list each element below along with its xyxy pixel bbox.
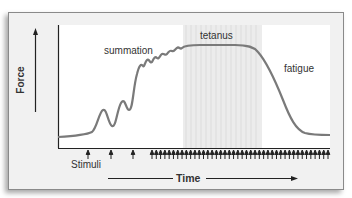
stimulus-arrow-icon [185,150,189,155]
y-axis-label: Force [15,66,26,94]
muscle-force-diagram: Force summation tetanus fatigue Stimuli … [0,0,352,198]
stimulus-arrow-icon [305,150,309,155]
stimulus-arrow-icon [172,150,176,155]
stimulus-arrow-icon [266,150,270,155]
stimulus-arrow-icon [296,150,300,155]
stimulus-arrow-icon [215,150,219,155]
stimulus-arrow-icon [322,150,326,155]
stimulus-arrow-icon [292,150,296,155]
stimulus-arrow-icon [219,150,223,155]
stimulus-arrow-icon [232,150,236,155]
stimulus-arrow-icon [240,150,244,155]
fatigue-label: fatigue [284,63,314,74]
stimulus-arrow-icon [326,150,330,155]
stimulus-arrow-icon [154,150,158,155]
stimulus-arrow-icon [275,150,279,155]
summation-label: summation [104,45,153,56]
stimulus-arrow-icon [253,150,257,155]
stimulus-arrow-icon [176,150,180,155]
stimuli-arrows [86,150,330,159]
stimulus-arrow-icon [159,150,163,155]
stimulus-arrow-icon [131,150,135,155]
force-arrow-head-icon [33,28,38,35]
stimulus-arrow-icon [202,150,206,155]
stimulus-arrow-icon [109,150,113,155]
stimulus-arrow-icon [300,150,304,155]
stimulus-arrow-icon [180,150,184,155]
stimulus-arrow-icon [262,150,266,155]
stimulus-arrow-icon [318,150,322,155]
stimulus-arrow-icon [245,150,249,155]
stimulus-arrow-icon [258,150,262,155]
stimulus-arrow-icon [206,150,210,155]
stimulus-arrow-icon [270,150,274,155]
stimulus-arrow-icon [288,150,292,155]
tetanus-band [183,25,262,148]
stimulus-arrow-icon [150,150,154,155]
stimulus-arrow-icon [279,150,283,155]
stimulus-arrow-icon [197,150,201,155]
stimulus-arrow-icon [283,150,287,155]
stimulus-arrow-icon [167,150,171,155]
stimulus-arrow-icon [163,150,167,155]
stimulus-arrow-icon [313,150,317,155]
tetanus-label: tetanus [200,30,233,41]
time-arrow-head-icon [291,176,298,181]
stimulus-arrow-icon [309,150,313,155]
stimulus-arrow-icon [193,150,197,155]
stimulus-arrow-icon [236,150,240,155]
stimulus-arrow-icon [227,150,231,155]
stimulus-arrow-icon [86,150,90,155]
stimulus-arrow-icon [189,150,193,155]
stimulus-arrow-icon [223,150,227,155]
stimuli-label: Stimuli [71,159,101,170]
x-axis-label: Time [176,172,200,184]
stimulus-arrow-icon [210,150,214,155]
stimulus-arrow-icon [249,150,253,155]
